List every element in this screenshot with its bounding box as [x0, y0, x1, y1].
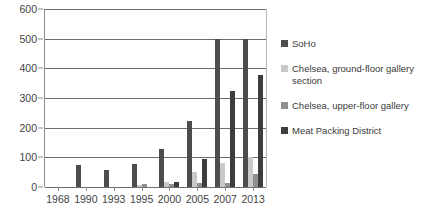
x-axis-tick-mark [58, 187, 59, 191]
y-axis-tick-label: 500 [19, 33, 37, 44]
x-axis-tick-label: 1968 [46, 194, 69, 211]
bar-chart: 6005004003002001000 19681990199319952000… [0, 0, 432, 223]
x-axis-tick-mark [86, 187, 87, 191]
y-axis-tick-mark [38, 98, 43, 99]
x-axis-tick-label: 1990 [74, 194, 97, 211]
y-axis-tick-label: 400 [19, 63, 37, 74]
bar-group [211, 9, 239, 187]
x-axis-tick-mark [197, 187, 198, 191]
y-axis: 6005004003002001000 [0, 0, 44, 187]
y-axis-tick-mark [38, 38, 43, 39]
x-axis-tick-mark [225, 187, 226, 191]
y-axis-tick-label: 0 [31, 182, 37, 193]
y-axis-tick-label: 200 [19, 122, 37, 133]
bar [230, 91, 235, 187]
bar [258, 75, 263, 187]
x-axis-tick-label: 1995 [130, 194, 153, 211]
y-axis-tick-label: 300 [19, 93, 37, 104]
legend-swatch-icon [281, 127, 288, 134]
x-axis-cell: 1968 [44, 187, 72, 211]
legend-item-label: Chelsea, ground-floor gallery section [292, 63, 429, 87]
bar [202, 159, 207, 187]
y-axis-tick-mark [38, 187, 43, 188]
legend-item[interactable]: SoHo [281, 38, 429, 50]
bar-group [239, 9, 267, 187]
bar-group [44, 9, 72, 187]
legend-swatch-icon [281, 40, 288, 47]
legend: SoHoChelsea, ground-floor gallery sectio… [281, 38, 429, 150]
x-axis-tick-label: 2013 [241, 194, 264, 211]
y-axis-tick-label: 100 [19, 152, 37, 163]
y-axis-tick-mark [38, 9, 43, 10]
y-axis-tick-mark [38, 157, 43, 158]
bars-layer [44, 9, 267, 187]
x-axis-cell: 1990 [72, 187, 100, 211]
legend-item[interactable]: Chelsea, upper-floor gallery [281, 100, 429, 112]
y-axis-tick-label: 600 [19, 4, 37, 15]
x-axis-tick-label: 1993 [102, 194, 125, 211]
x-axis-tick-label: 2005 [186, 194, 209, 211]
bar-group [156, 9, 184, 187]
bar [132, 164, 137, 187]
bar-group [183, 9, 211, 187]
x-axis-cell: 2007 [211, 187, 239, 211]
bar-group [72, 9, 100, 187]
x-axis-cell: 2013 [239, 187, 267, 211]
x-axis-tick-label: 2007 [214, 194, 237, 211]
legend-swatch-icon [281, 65, 288, 72]
bar [76, 165, 81, 187]
x-axis-cell: 1993 [100, 187, 128, 211]
legend-item[interactable]: Meat Packing District [281, 125, 429, 137]
bar-group [100, 9, 128, 187]
bar [104, 170, 109, 187]
x-axis: 19681990199319952000200520072013 [44, 187, 267, 211]
legend-item-label: Meat Packing District [292, 125, 381, 137]
x-axis-tick-mark [169, 187, 170, 191]
legend-item-label: SoHo [292, 38, 316, 50]
y-axis-tick-mark [38, 127, 43, 128]
x-axis-tick-mark [142, 187, 143, 191]
legend-item[interactable]: Chelsea, ground-floor gallery section [281, 63, 429, 87]
x-axis-cell: 2005 [183, 187, 211, 211]
x-axis-tick-mark [114, 187, 115, 191]
x-axis-tick-mark [253, 187, 254, 191]
legend-item-label: Chelsea, upper-floor gallery [292, 100, 409, 112]
bar-group [128, 9, 156, 187]
x-axis-cell: 2000 [156, 187, 184, 211]
y-axis-tick-mark [38, 68, 43, 69]
x-axis-cell: 1995 [128, 187, 156, 211]
x-axis-tick-label: 2000 [158, 194, 181, 211]
legend-swatch-icon [281, 102, 288, 109]
